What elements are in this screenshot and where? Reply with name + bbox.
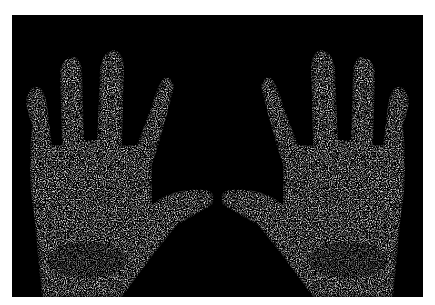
left-wrist-shadow — [47, 242, 127, 278]
hands-scan — [12, 15, 423, 297]
scan-image — [12, 15, 423, 297]
right-wrist-shadow — [308, 242, 388, 278]
